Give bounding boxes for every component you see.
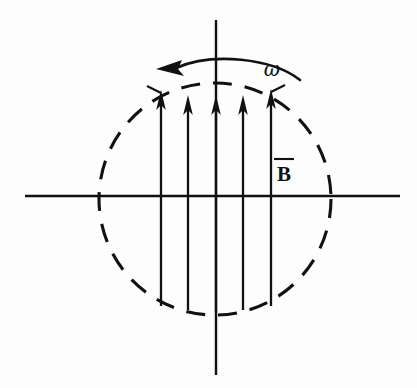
field-arrow-barb [271,85,285,92]
field-vector-label: B [277,162,291,186]
field-arrow [183,95,193,310]
omega-label: ω [264,57,280,81]
rotation-arrow-head [156,60,184,76]
rotation-arc-path [176,59,300,80]
field-arrow-barb [147,86,161,93]
diagram-canvas: ω B [0,0,417,388]
field-arrow [211,95,221,312]
field-vector-label-group: B [274,159,294,186]
field-arrow-group [147,85,285,312]
field-arrow [238,95,248,310]
physics-diagram-figure: ω B [0,0,417,388]
